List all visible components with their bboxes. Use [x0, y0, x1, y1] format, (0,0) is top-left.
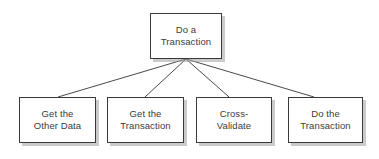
- node-do-a-transaction[interactable]: Do a Transaction: [150, 13, 222, 59]
- node-root-label: Do a Transaction: [158, 24, 214, 48]
- node-get-the-other-data[interactable]: Get the Other Data: [19, 97, 96, 143]
- node-child-1-label: Get the Transaction: [117, 108, 173, 132]
- connector-root-to-child-3: [186, 59, 314, 97]
- node-child-3-label: Do the Transaction: [297, 108, 353, 132]
- node-cross-validate[interactable]: Cross- Validate: [196, 97, 272, 143]
- diagram-canvas: Do a Transaction Get the Other Data Get …: [0, 0, 379, 159]
- node-child-2-label: Cross- Validate: [214, 108, 254, 132]
- connector-root-to-child-2: [186, 59, 229, 97]
- connector-root-to-child-0: [58, 59, 186, 97]
- node-do-the-transaction[interactable]: Do the Transaction: [288, 97, 363, 143]
- node-get-the-transaction[interactable]: Get the Transaction: [107, 97, 184, 143]
- node-child-0-label: Get the Other Data: [31, 108, 84, 132]
